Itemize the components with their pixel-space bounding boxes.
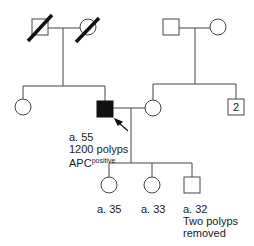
spouse-brothers-count: 2 (233, 101, 239, 113)
gene-status-superscript: positive (92, 157, 116, 164)
proband-gene-label: APCpositive (69, 155, 115, 169)
spouse-circle (145, 100, 161, 116)
proband-arrow-icon (115, 119, 128, 131)
grandfather-maternal-square (163, 19, 179, 35)
proband-age-label: a. 55 (69, 131, 93, 143)
gene-name: APC (69, 157, 92, 169)
proband-square (97, 101, 113, 117)
child-3-note-line2: removed (183, 227, 226, 239)
child-2-circle (144, 177, 160, 193)
child-3-square (184, 177, 200, 193)
child-3-note-line1: Two polyps (183, 215, 238, 227)
grandmother-maternal-circle (210, 19, 226, 35)
child-1-circle (101, 177, 117, 193)
child-3-age-label: a. 32 (183, 203, 207, 215)
sister-circle (15, 99, 31, 115)
child-1-age-label: a. 35 (97, 203, 121, 215)
pedigree-diagram (0, 0, 254, 246)
proband-finding-label: 1200 polyps (69, 143, 128, 155)
child-2-age-label: a. 33 (141, 203, 165, 215)
